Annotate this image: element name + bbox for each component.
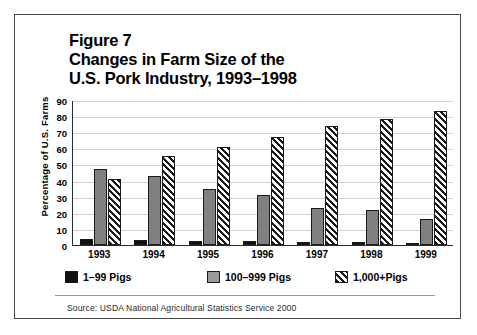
bar [434,111,447,245]
plot-area [72,101,453,246]
bar [189,241,202,245]
plot-wrapper: Percentage of U.S. Farms 010203040506070… [15,101,460,261]
bar [420,219,433,245]
bar [94,169,107,245]
bar [311,208,324,245]
y-tick-label: 20 [41,208,67,219]
legend-swatch-icon [335,271,348,283]
title-line-1: Figure 7 [69,31,439,50]
bar [108,179,121,245]
legend-label: 100–999 Pigs [225,271,291,283]
x-tick-label: 1993 [72,249,126,260]
bar [271,137,284,245]
y-tick-label: 70 [41,128,67,139]
legend-divider [55,295,435,296]
y-tick-label: 30 [41,192,67,203]
x-tick-label: 1997 [290,249,344,260]
x-axis-ticks: 1993199419951996199719981999 [72,249,453,265]
bar [380,119,393,245]
chart-legend: 1–99 Pigs100–999 Pigs1,000+Pigs [65,271,455,289]
bar-group [243,101,284,245]
bar [80,239,93,245]
legend-swatch-icon [65,271,78,283]
legend-swatch-icon [207,271,220,283]
bar [243,241,256,245]
x-tick-label: 1995 [181,249,235,260]
legend-label: 1,000+Pigs [353,271,408,283]
bar-group [297,101,338,245]
bar [217,147,230,245]
x-tick-label: 1996 [235,249,289,260]
bars-layer [73,101,453,245]
y-tick-label: 60 [41,144,67,155]
y-tick-label: 10 [41,224,67,235]
y-tick-label: 80 [41,112,67,123]
bar [162,156,175,245]
y-tick-label: 0 [41,241,67,252]
figure-frame: Figure 7 Changes in Farm Size of the U.S… [14,14,461,319]
figure-title: Figure 7 Changes in Farm Size of the U.S… [69,31,439,88]
bar [297,242,310,245]
bar-group [406,101,447,245]
bar [366,210,379,245]
legend-item: 1–99 Pigs [65,271,131,283]
legend-label: 1–99 Pigs [83,271,131,283]
title-line-2: Changes in Farm Size of the [69,50,439,69]
x-tick-label: 1998 [344,249,398,260]
bar [203,189,216,245]
legend-item: 100–999 Pigs [207,271,291,283]
source-note: Source: USDA National Agricultural Stati… [67,303,296,313]
bar [257,195,270,245]
legend-item: 1,000+Pigs [335,271,408,283]
bar [406,243,419,245]
bar-group [352,101,393,245]
x-tick-label: 1999 [399,249,453,260]
bar [352,242,365,245]
title-line-3: U.S. Pork Industry, 1993–1998 [69,69,439,88]
y-tick-label: 40 [41,176,67,187]
bar [134,240,147,245]
bar-group [80,101,121,245]
bar-group [189,101,230,245]
bar [148,176,161,245]
bar-group [134,101,175,245]
x-tick-label: 1994 [126,249,180,260]
bar [325,126,338,245]
y-axis-ticks: 0102030405060708090 [41,101,67,246]
y-tick-label: 90 [41,96,67,107]
y-tick-label: 50 [41,160,67,171]
